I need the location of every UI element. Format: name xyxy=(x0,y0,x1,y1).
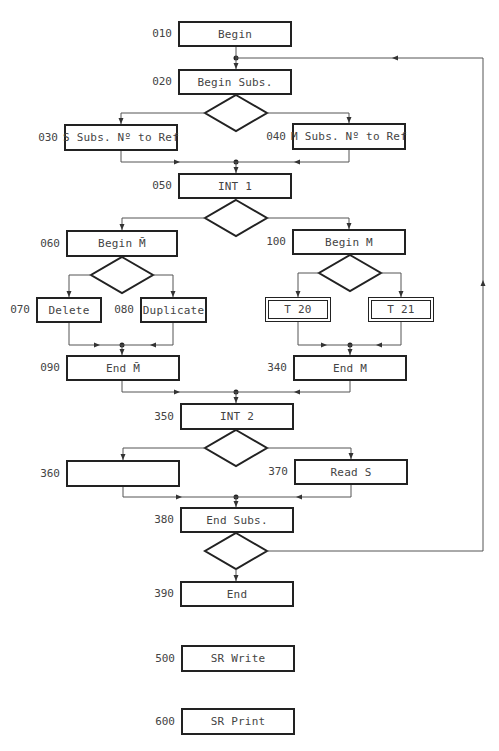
process-label: Begin M xyxy=(325,236,373,249)
process-box-t21: T 21 xyxy=(368,297,434,322)
decision-diamond xyxy=(205,95,267,131)
step-number: 020 xyxy=(142,75,172,88)
step-number: 080 xyxy=(104,303,134,316)
process-label: End M̄ xyxy=(106,362,140,375)
step-number: 050 xyxy=(142,179,172,192)
step-number: 500 xyxy=(145,652,175,665)
process-box-090: End M̄ xyxy=(66,355,180,381)
process-box-020: Begin Subs. xyxy=(178,69,292,95)
process-box-080: Duplicate xyxy=(140,297,207,323)
step-number: 060 xyxy=(30,237,60,250)
decision-diamond xyxy=(91,257,153,293)
process-label: Read S xyxy=(331,466,372,479)
process-box-390: End xyxy=(180,581,294,607)
process-box-380: End Subs. xyxy=(180,507,294,533)
process-box-350: INT 2 xyxy=(180,403,294,430)
process-label: End xyxy=(227,588,247,601)
step-number: 390 xyxy=(144,587,174,600)
step-number: 360 xyxy=(30,467,60,480)
process-label: SR Print xyxy=(211,715,266,728)
process-label: SR Write xyxy=(211,652,266,665)
process-label: End M xyxy=(333,362,367,375)
step-number: 100 xyxy=(256,235,286,248)
step-number: 090 xyxy=(30,361,60,374)
process-box-340: End M xyxy=(293,355,407,381)
process-label: T 20 xyxy=(284,303,311,316)
process-box-040: M Subs. Nº to Ref xyxy=(292,123,406,150)
process-label: INT 1 xyxy=(218,180,252,193)
step-number: 350 xyxy=(144,410,174,423)
process-box-500: SR Write xyxy=(181,645,295,672)
process-box-370: Read S xyxy=(294,459,408,485)
process-box-100: Begin M xyxy=(292,229,406,255)
process-label: Begin M̄ xyxy=(98,237,146,250)
step-number: 010 xyxy=(142,27,172,40)
process-box-010: Begin xyxy=(178,21,292,47)
decision-diamond xyxy=(319,255,381,291)
process-label: Begin Subs. xyxy=(197,76,272,89)
step-number: 370 xyxy=(258,465,288,478)
step-number: 030 xyxy=(28,131,58,144)
step-number: 070 xyxy=(0,303,30,316)
process-box-360 xyxy=(66,460,180,487)
decision-diamond xyxy=(205,533,267,569)
process-box-070: Delete xyxy=(36,297,102,323)
process-box-600: SR Print xyxy=(181,708,295,735)
decision-diamond xyxy=(205,430,267,466)
process-label: T 21 xyxy=(387,303,414,316)
process-label: INT 2 xyxy=(220,410,254,423)
process-label: M Subs. Nº to Ref xyxy=(291,130,407,143)
process-box-030: S Subs. Nº to Ref xyxy=(64,124,178,151)
decision-diamond xyxy=(205,200,267,236)
process-label: End Subs. xyxy=(206,514,267,527)
process-label: Duplicate xyxy=(143,304,204,317)
process-box-060: Begin M̄ xyxy=(66,230,178,257)
step-number: 600 xyxy=(145,715,175,728)
process-label: Delete xyxy=(49,304,90,317)
process-box-t20: T 20 xyxy=(265,297,331,322)
step-number: 340 xyxy=(257,361,287,374)
step-number: 040 xyxy=(256,130,286,143)
process-label: S Subs. Nº to Ref xyxy=(63,131,179,144)
process-box-050: INT 1 xyxy=(178,173,292,199)
step-number: 380 xyxy=(144,513,174,526)
process-label: Begin xyxy=(218,28,252,41)
